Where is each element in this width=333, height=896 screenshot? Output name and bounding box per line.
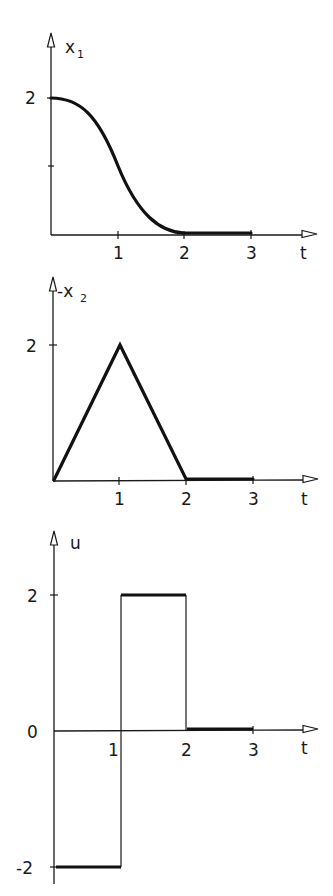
x-tick-label-1: 1 — [114, 489, 125, 509]
y-tick-label-0: 0 — [27, 722, 38, 742]
x-tick-label-2: 2 — [181, 489, 192, 509]
x-tick-label-2: 2 — [179, 243, 190, 263]
y-axis-arrow-icon — [51, 531, 58, 545]
y-tick-label-2: 2 — [26, 336, 37, 356]
x-axis — [54, 730, 304, 731]
x-axis-arrow-icon — [302, 231, 317, 238]
y-tick-label-2: 2 — [27, 586, 38, 606]
y-tick-label-neg2: -2 — [16, 858, 33, 878]
y-axis-label: u — [70, 533, 81, 553]
y-axis-label-subscript: 2 — [80, 292, 87, 305]
y-axis-arrow-icon — [50, 277, 57, 291]
plot-u: 2 0 -2 1 2 3 t u — [16, 531, 318, 884]
x-axis — [53, 480, 304, 481]
x-axis-arrow-icon — [303, 476, 318, 483]
x-tick-label-1: 1 — [108, 740, 119, 760]
x-tick-label-3: 3 — [248, 740, 259, 760]
x-tick-label-3: 3 — [246, 243, 257, 263]
neg-x2-curve — [54, 345, 253, 480]
plot-neg-x2: 2 1 2 3 t -x 2 — [26, 277, 318, 509]
x-tick-label-1: 1 — [113, 243, 124, 263]
x-tick-label-3: 3 — [248, 489, 259, 509]
x-axis-label: t — [301, 738, 308, 758]
x1-curve — [51, 98, 251, 233]
x-tick-label-2: 2 — [181, 740, 192, 760]
plot-x1: 2 1 2 3 t x 1 — [25, 33, 317, 263]
y-axis-label-subscript: 1 — [77, 48, 84, 61]
y-axis-label: -x — [57, 281, 73, 301]
x-axis-label: t — [301, 489, 308, 509]
chart-canvas: 2 1 2 3 t x 1 2 1 2 3 t -x 2 — [0, 0, 333, 896]
y-tick-label-2: 2 — [25, 88, 36, 108]
x-axis-label: t — [300, 243, 307, 263]
y-axis-arrow-icon — [48, 33, 55, 47]
y-axis-label: x — [65, 37, 75, 57]
x-axis-arrow-icon — [303, 726, 318, 733]
